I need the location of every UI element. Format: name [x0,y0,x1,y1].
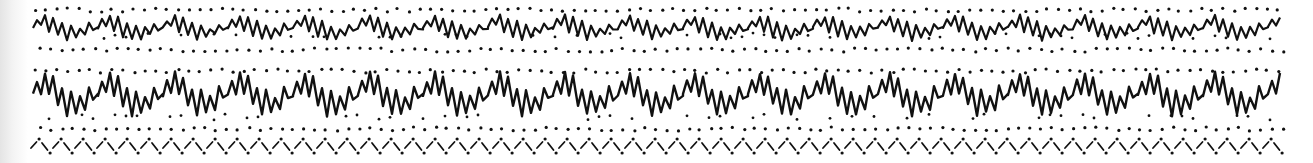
top-waveform-band [33,6,1285,53]
waveform-illustration [0,0,1313,163]
bottom-chevron-dot-band [31,137,1284,154]
middle-waveform-band [33,67,1285,132]
